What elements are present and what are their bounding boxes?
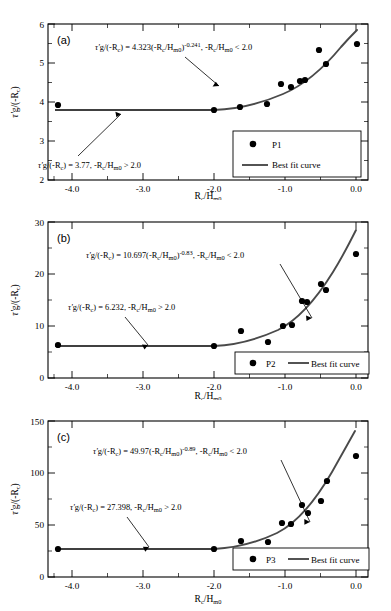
y-tick-label: 6 [39,20,44,30]
data-point [316,47,322,53]
x-tick-label: -4.0 [65,581,80,591]
legend-box-a [233,131,361,177]
data-point [265,539,271,545]
panel-c-svg: 0 50 100 150 -4.0 -3.0 -2.0 -1.0 0.0 Rc/… [0,400,391,611]
best-fit-curve-b [214,230,356,346]
data-point [211,343,217,349]
x-tick-label: 0.0 [350,184,362,194]
x-tick-label: 0.0 [350,581,362,591]
annotation-arrowhead-power-a [213,82,219,87]
panel-letter-a: (a) [57,34,70,46]
legend-label-series: P1 [272,140,282,150]
y-tick-label: 2 [39,175,44,185]
legend-marker-icon [250,360,257,367]
data-point [55,102,61,108]
best-fit-curve-a [214,30,357,110]
x-tick-label: -1.0 [278,581,293,591]
figure-container: 2 3 4 5 6 -4.0 -3.0 [0,0,391,611]
legend-label-series: P2 [266,359,276,369]
x-tick-label: -3.0 [136,184,151,194]
y-tick-label: 0 [39,572,44,582]
y-tick-label: 4 [39,97,44,107]
data-point [353,453,359,459]
annotation-arrow-power-a [185,57,219,86]
annotation-arrow-power-c [281,460,310,522]
y-axis-title-c: τ'g/(-Rc) [10,483,21,515]
legend-label-series: P3 [266,555,276,565]
y-axis-title-a: τ'g/(-Rc) [10,86,21,118]
data-point [288,84,294,90]
y-tick-label: 100 [30,468,44,478]
legend-label-fit: Best fit curve [272,160,321,170]
x-tick-label: -3.0 [136,581,151,591]
annotation-arrow-power-b [280,264,312,318]
y-tick-label: 20 [35,269,45,279]
legend-c[interactable]: P3 Best fit curve [233,548,369,570]
equation-power-law-a: τ'g/(-Rc) = 4.323(-Rc/Hm0)-0.241, -Rc/Hm… [95,41,252,53]
x-axis-title-b: Rc/Hm0 [195,391,222,400]
y-tick-label: 0 [39,373,44,383]
data-point [318,498,324,504]
data-point [318,281,324,287]
legend-b[interactable]: P2 Best fit curve [235,352,369,374]
y-tick-label: 50 [35,520,45,530]
y-tick-label: 30 [35,218,45,228]
legend-marker-icon [250,141,257,148]
data-point [280,323,286,329]
data-point [304,299,310,305]
panel-letter-b: (b) [57,232,70,244]
y-tick-label: 5 [39,58,44,68]
equation-power-law-b: τ'g/(-Rc) = 10.697(-Rc/Hm0)-0.83, -Rc/Hm… [86,249,244,261]
data-point [55,546,61,552]
x-tick-label: -1.0 [278,184,293,194]
data-point [323,61,329,67]
data-point [324,478,330,484]
data-point [279,520,285,526]
data-point [289,322,295,328]
data-point [265,339,271,345]
equation-power-law-c: τ'g/(-Rc) = 49.97(-Rc/Hm0)-0.89, -Rc/Hm0… [93,445,247,457]
panel-c: 0 50 100 150 -4.0 -3.0 -2.0 -1.0 0.0 Rc/… [0,400,391,611]
legend-marker-icon [250,556,257,563]
data-point [278,81,284,87]
y-tick-label: 3 [39,136,44,146]
data-point [211,546,217,552]
x-tick-label: -4.0 [65,184,80,194]
legend-label-fit: Best fit curve [311,359,360,369]
x-axis-title-c: Rc/Hm0 [195,594,222,605]
annotation-arrow-const-c [127,517,149,547]
legend-label-fit: Best fit curve [311,555,360,565]
data-point [238,538,244,544]
data-point [264,101,270,107]
data-point [237,104,243,110]
equation-constant-a: τ'g/(-Rc) = 3.77, -Rc/Hm0 > 2.0 [38,161,141,171]
data-point [302,77,308,83]
data-point [288,521,294,527]
x-tick-label: 0.0 [350,382,362,392]
y-axis-title-b: τ'g/(-Rc) [10,284,21,316]
x-tick-label: -1.0 [278,382,293,392]
x-tick-label: -3.0 [136,382,151,392]
data-point [55,342,61,348]
data-point [323,287,329,293]
annotation-arrowhead-const-b [142,345,148,350]
data-point [211,107,217,113]
annotation-arrow-const-a [78,114,121,156]
x-tick-label: -4.0 [65,382,80,392]
panel-a: 2 3 4 5 6 -4.0 -3.0 [0,0,391,200]
data-point [238,328,244,334]
equation-constant-c: τ'g/(-Rc) = 27.398, -Rc/Hm0 > 2.0 [70,503,181,513]
annotation-arrow-const-b [125,317,148,345]
data-point [354,41,360,47]
equation-constant-b: τ'g/(-Rc) = 6.232, -Rc/Hm0 > 2.0 [68,303,175,313]
y-tick-label: 150 [30,417,44,427]
data-point [353,251,359,257]
legend-a[interactable]: P1 Best fit curve [233,131,361,177]
y-tick-label: 10 [35,321,45,331]
panel-a-svg: 2 3 4 5 6 -4.0 -3.0 [0,0,391,200]
x-tick-label: -2.0 [207,581,222,591]
panel-b: 0 10 20 30 -4.0 -3.0 -2.0 -1.0 0.0 Rc/Hm… [0,200,391,400]
panel-letter-c: (c) [57,431,70,443]
panel-b-svg: 0 10 20 30 -4.0 -3.0 -2.0 -1.0 0.0 Rc/Hm… [0,200,391,400]
